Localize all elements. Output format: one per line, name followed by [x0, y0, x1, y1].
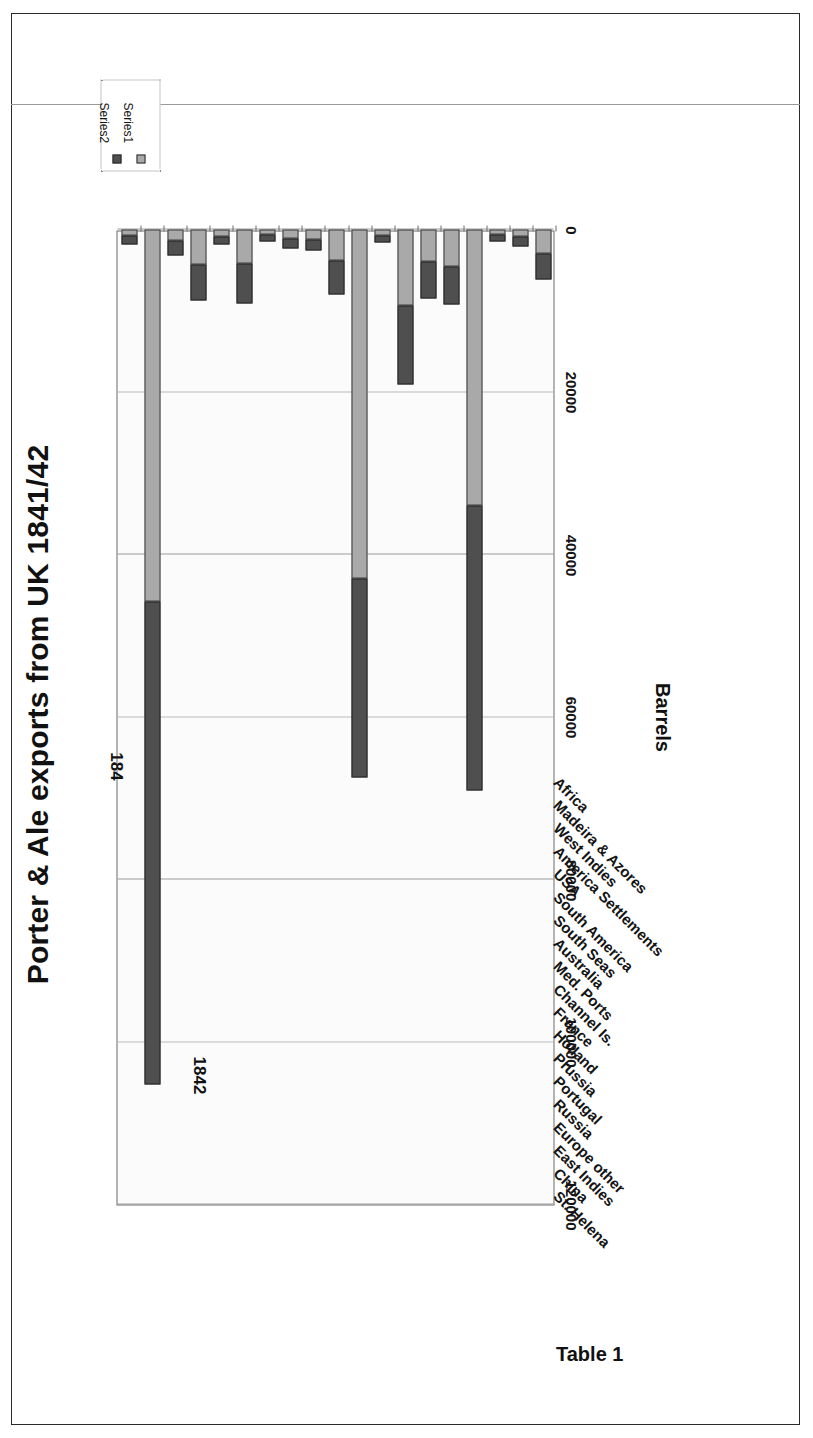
bar-segment-series2	[190, 264, 206, 301]
bar-row	[463, 231, 485, 1204]
category-tick	[255, 225, 256, 231]
data-annotation: 184	[105, 736, 125, 796]
bar-row	[256, 231, 278, 1204]
legend-label: Series1	[120, 102, 134, 143]
bar-segment-series1	[167, 229, 183, 240]
bar-row	[509, 231, 531, 1204]
bar-row	[394, 231, 416, 1204]
bar-row	[440, 231, 462, 1204]
bar-row	[348, 231, 370, 1204]
bar-row	[210, 231, 232, 1204]
bar-segment-series1	[397, 229, 413, 305]
bar-segment-series2	[420, 262, 436, 299]
category-tick	[232, 225, 233, 231]
bar-row	[302, 231, 324, 1204]
value-tick-label: 20000	[562, 353, 579, 433]
value-tick-label: 100000	[562, 1003, 579, 1083]
bar-segment-series2	[351, 578, 367, 777]
value-tick-label: 120000	[562, 1165, 579, 1245]
category-tick	[417, 225, 418, 231]
bar-segment-series2	[397, 305, 413, 385]
bar-segment-series2	[305, 239, 321, 250]
value-tick-label: 40000	[562, 515, 579, 595]
category-tick	[348, 225, 349, 231]
legend-swatch	[136, 154, 145, 163]
legend-label: Series2	[96, 102, 110, 143]
bar-segment-series1	[282, 229, 298, 238]
bar-row	[532, 231, 554, 1204]
bar-segment-series1	[351, 229, 367, 578]
category-tick	[209, 225, 210, 231]
chart-figure: Porter & Ale exports from UK 1841/42 St.…	[12, 14, 799, 1424]
data-annotation: 1842	[188, 1045, 208, 1105]
table-caption: Table 1	[556, 1343, 623, 1366]
category-tick	[463, 225, 464, 231]
category-tick	[555, 225, 556, 231]
bar-segment-series2	[121, 235, 137, 244]
category-tick	[486, 225, 487, 231]
value-tick-label: 60000	[562, 678, 579, 758]
category-tick	[532, 225, 533, 231]
bar-row	[118, 231, 140, 1204]
bar-row	[486, 231, 508, 1204]
bar-row	[417, 231, 439, 1204]
value-axis-title: Barrels	[650, 658, 673, 778]
value-tick-label: 80000	[562, 840, 579, 920]
bar-row	[325, 231, 347, 1204]
plot-area	[116, 230, 554, 1205]
bar-segment-series2	[328, 260, 344, 294]
bar-segment-series1	[466, 229, 482, 505]
bar-segment-series1	[121, 229, 137, 235]
bar-row	[279, 231, 301, 1204]
category-tick	[301, 225, 302, 231]
bar-segment-series1	[535, 229, 551, 253]
bar-segment-series2	[489, 234, 505, 241]
bar-segment-series2	[167, 240, 183, 255]
bar-segment-series2	[213, 236, 229, 244]
page-root: Porter & Ale exports from UK 1841/42 St.…	[0, 0, 813, 1438]
bar-segment-series2	[512, 236, 528, 246]
bar-segment-series1	[144, 229, 160, 601]
chart-legend[interactable]: Series2Series1	[100, 79, 160, 171]
bar-segment-series2	[259, 234, 275, 241]
bar-row	[164, 231, 186, 1204]
bar-row	[371, 231, 393, 1204]
bar-segment-series2	[282, 238, 298, 249]
bar-segment-series1	[420, 229, 436, 262]
bar-segment-series1	[190, 229, 206, 264]
category-tick	[186, 225, 187, 231]
bar-segment-series2	[443, 266, 459, 304]
bar-row	[233, 231, 255, 1204]
rotated-figure-wrapper: Porter & Ale exports from UK 1841/42 St.…	[12, 14, 799, 1424]
value-axis-labels: 120000100000800006000040000200000	[560, 230, 650, 1205]
chart-title: Porter & Ale exports from UK 1841/42	[20, 304, 54, 1124]
bar-row	[141, 231, 163, 1204]
bar-segment-series1	[489, 229, 505, 234]
category-tick	[278, 225, 279, 231]
legend-swatch	[112, 154, 121, 163]
bar-segment-series1	[512, 229, 528, 236]
bar-segment-series2	[466, 505, 482, 789]
bar-segment-series1	[236, 229, 252, 263]
bar-segment-series1	[213, 229, 229, 236]
category-tick	[163, 225, 164, 231]
category-tick	[140, 225, 141, 231]
bar-segment-series1	[305, 229, 321, 239]
bar-segment-series1	[374, 229, 390, 235]
bar-segment-series2	[374, 235, 390, 242]
category-tick	[509, 225, 510, 231]
bar-segment-series2	[535, 253, 551, 279]
value-tick-label: 0	[562, 190, 579, 270]
bar-segment-series1	[328, 229, 344, 260]
category-tick	[371, 225, 372, 231]
category-tick	[440, 225, 441, 231]
bar-segment-series2	[144, 601, 160, 1084]
bar-segment-series1	[259, 229, 275, 234]
category-tick	[324, 225, 325, 231]
category-tick	[394, 225, 395, 231]
bar-segment-series1	[443, 229, 459, 266]
bar-segment-series2	[236, 263, 252, 303]
